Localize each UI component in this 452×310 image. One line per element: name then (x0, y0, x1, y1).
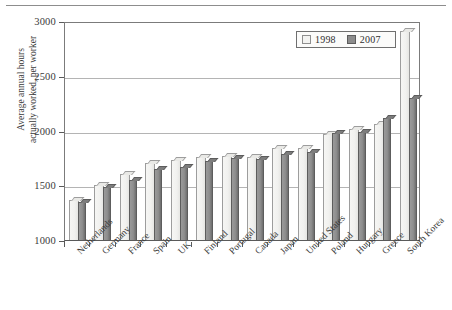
bar-2007[interactable] (307, 152, 315, 240)
y-axis-tick-label: 1500 (20, 181, 56, 191)
y-axis-title: Average annual hours actually worked, pe… (16, 0, 39, 190)
bar-group (120, 23, 145, 240)
bar-group (196, 23, 221, 240)
x-axis-tick-mark (115, 242, 116, 247)
bar-group (222, 23, 247, 240)
y-axis-title-line-2: actually worked, per worker (27, 0, 39, 190)
y-axis-tick-label: 2500 (20, 72, 56, 82)
bar-group (349, 23, 374, 240)
x-axis-tick-mark (191, 242, 192, 247)
light-swatch-icon (302, 35, 311, 44)
bar-2007[interactable] (231, 158, 239, 240)
bar-group (69, 23, 94, 240)
bar-2007[interactable] (358, 132, 366, 240)
bar-group (247, 23, 272, 240)
x-axis-tick-mark (318, 242, 319, 247)
bar-2007[interactable] (205, 161, 213, 240)
legend-label-1998: 1998 (315, 35, 336, 45)
bar-2007[interactable] (383, 118, 391, 240)
legend-item-1998[interactable]: 1998 (302, 35, 336, 45)
bar-group (94, 23, 119, 240)
chart-figure: Average annual hours actually worked, pe… (0, 0, 452, 310)
x-axis-tick-mark (293, 242, 294, 247)
bar-group (374, 23, 399, 240)
x-axis-tick-mark (64, 242, 65, 247)
plot-area (64, 22, 420, 241)
bar-2007[interactable] (78, 202, 86, 240)
bar-2007[interactable] (281, 154, 289, 241)
bar-group (171, 23, 196, 240)
bar-group (323, 23, 348, 240)
bar-2007[interactable] (180, 167, 188, 240)
bar-2007[interactable] (409, 98, 417, 240)
x-axis-tick-mark (369, 242, 370, 247)
y-axis-tick-label: 1000 (20, 236, 56, 246)
x-axis-tick-mark (420, 242, 421, 247)
bar-2007[interactable] (154, 169, 162, 240)
x-axis-tick-mark (166, 242, 167, 247)
y-axis-tick-label: 2000 (20, 127, 56, 137)
x-axis-tick-mark (395, 242, 396, 247)
bar-group (272, 23, 297, 240)
y-axis-tick-label: 3000 (20, 17, 56, 27)
chart-legend[interactable]: 1998 2007 (296, 31, 396, 48)
x-axis-tick-mark (89, 242, 90, 247)
legend-item-2007[interactable]: 2007 (347, 35, 381, 45)
bar-group (298, 23, 323, 240)
bar-group (400, 23, 425, 240)
bar-2007[interactable] (256, 159, 264, 240)
x-axis-tick-mark (242, 242, 243, 247)
y-axis-title-line-1: Average annual hours (16, 0, 28, 190)
x-axis-tick-mark (344, 242, 345, 247)
header-divider (6, 5, 446, 6)
x-axis-tick-mark (217, 242, 218, 247)
x-axis-tick-mark (267, 242, 268, 247)
dark-swatch-icon (347, 35, 356, 44)
bar-group (145, 23, 170, 240)
x-axis-tick-mark (140, 242, 141, 247)
legend-label-2007: 2007 (360, 35, 381, 45)
